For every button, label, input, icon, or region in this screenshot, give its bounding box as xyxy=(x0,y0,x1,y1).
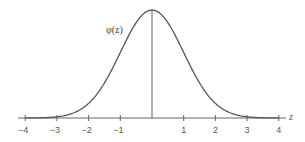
x-tick-label: 4 xyxy=(276,125,281,135)
x-tick-label: 3 xyxy=(245,125,250,135)
x-axis-tick-labels: −4−3−2−11234 xyxy=(18,125,281,135)
x-tick-label: −1 xyxy=(113,125,123,135)
normal-density-chart: −4−3−2−11234 φ(z) z xyxy=(0,0,305,142)
x-tick-label: −4 xyxy=(18,125,28,135)
x-tick-label: 2 xyxy=(213,125,218,135)
x-tick-label: −2 xyxy=(81,125,91,135)
x-tick-label: −3 xyxy=(50,125,60,135)
curve-label: φ(z) xyxy=(106,24,123,36)
x-tick-label: 1 xyxy=(181,125,186,135)
x-axis-label: z xyxy=(288,111,293,122)
